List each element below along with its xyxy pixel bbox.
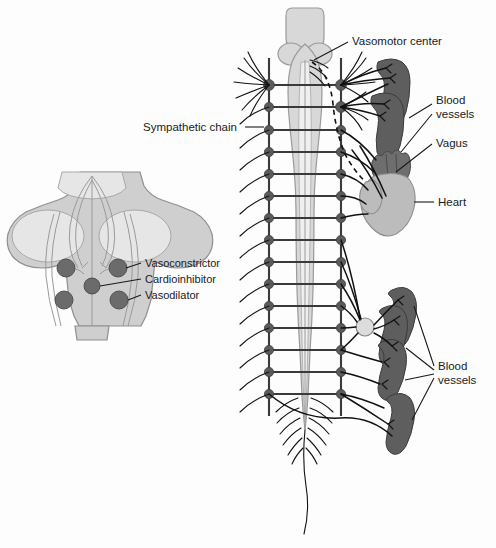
label-blood-vessels-upper-line2: vessels: [436, 108, 475, 120]
peripheral-nerves-right-cervical: [341, 52, 375, 130]
sympathetic-fibers-lower-vessels: [269, 300, 398, 436]
label-blood-vessels-lower-line1: Blood: [438, 360, 467, 372]
autonomic-circulation-diagram: Vasoconstrictor Cardioinhibitor Vasodila…: [0, 0, 496, 548]
label-vasomotor-center: Vasomotor center: [352, 35, 442, 47]
ganglia-left: [264, 80, 275, 399]
label-vagus: Vagus: [436, 137, 468, 149]
label-sympathetic-chain: Sympathetic chain: [143, 121, 237, 133]
collateral-ganglion: [356, 318, 374, 336]
label-vasodilator: Vasodilator: [145, 289, 200, 301]
label-blood-vessels-upper-line1: Blood: [436, 94, 465, 106]
inset-dot-vasoconstrictor-right: [109, 259, 127, 277]
blood-vessel-lower-4: [386, 393, 415, 454]
inset-dot-vasodilator-right: [110, 291, 128, 309]
splanchnic-nerves: [341, 240, 361, 350]
label-vasoconstrictor: Vasoconstrictor: [145, 257, 220, 269]
spinal-cord: [278, 8, 332, 534]
blood-vessel-lower-3: [378, 339, 407, 400]
medulla-brainstem-inset: [7, 172, 213, 340]
label-heart: Heart: [438, 196, 467, 208]
peripheral-nerves-left: [234, 52, 269, 412]
label-cardioinhibitor: Cardioinhibitor: [145, 273, 216, 285]
inset-dot-vasoconstrictor: [57, 259, 75, 277]
filum-terminale: [304, 430, 308, 534]
brainstem: [286, 8, 324, 48]
inset-dot-vasodilator-left: [55, 291, 73, 309]
label-blood-vessels-lower-line2: vessels: [438, 374, 477, 386]
inset-dot-cardioinhibitor: [84, 278, 100, 294]
